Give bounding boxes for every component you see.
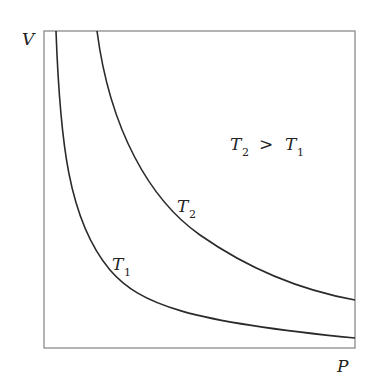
pv-diagram: V P T 2 T 1 T 2 > T 1 <box>0 0 367 386</box>
svg-text:2: 2 <box>189 208 196 221</box>
isotherm-curve-t2 <box>97 31 355 300</box>
svg-text:1: 1 <box>297 146 304 159</box>
curve-label-t2: T 2 <box>177 196 196 221</box>
svg-text:1: 1 <box>124 266 131 279</box>
svg-text:2: 2 <box>242 146 249 159</box>
x-axis-label: P <box>336 356 349 376</box>
plot-frame <box>44 31 355 348</box>
isotherm-curve-t1 <box>56 31 355 338</box>
svg-text:>: > <box>259 134 273 154</box>
temperature-relation-annotation: T 2 > T 1 <box>230 134 304 159</box>
y-axis-label: V <box>22 29 36 49</box>
